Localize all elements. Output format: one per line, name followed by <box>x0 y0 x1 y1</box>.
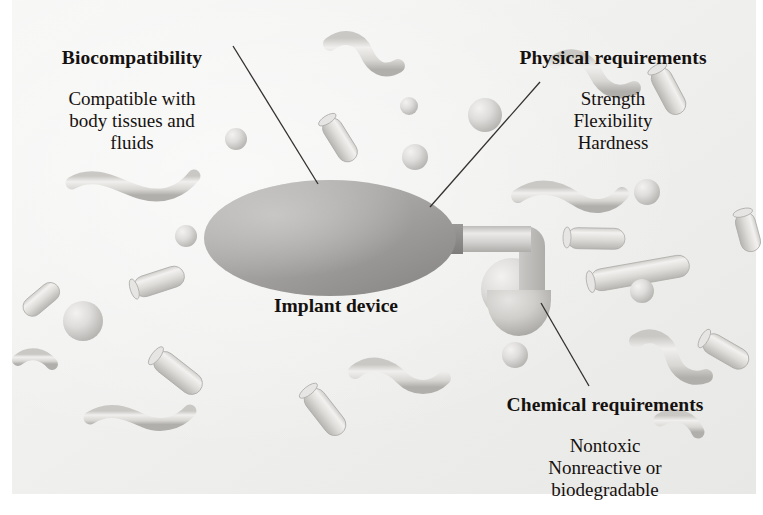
label-physical-body: Strength Flexibility Hardness <box>470 88 756 154</box>
label-biocompatibility-body: Compatible with body tissues and fluids <box>24 88 240 154</box>
label-chemical-requirements: Chemical requirements Nontoxic Nonreacti… <box>455 375 755 515</box>
figure-root: Biocompatibility Compatible with body ti… <box>0 0 763 515</box>
leader-line-chemical <box>541 303 589 386</box>
leader-line-biocompatibility <box>233 46 318 184</box>
label-chemical-heading: Chemical requirements <box>455 394 755 417</box>
label-biocompatibility-heading: Biocompatibility <box>24 47 240 70</box>
label-physical-heading: Physical requirements <box>470 47 756 70</box>
label-biocompatibility: Biocompatibility Compatible with body ti… <box>24 28 240 172</box>
label-physical-requirements: Physical requirements Strength Flexibili… <box>470 28 756 172</box>
label-chemical-body: Nontoxic Nonreactive or biodegradable <box>455 435 755 501</box>
label-implant-device: Implant device <box>236 295 436 318</box>
